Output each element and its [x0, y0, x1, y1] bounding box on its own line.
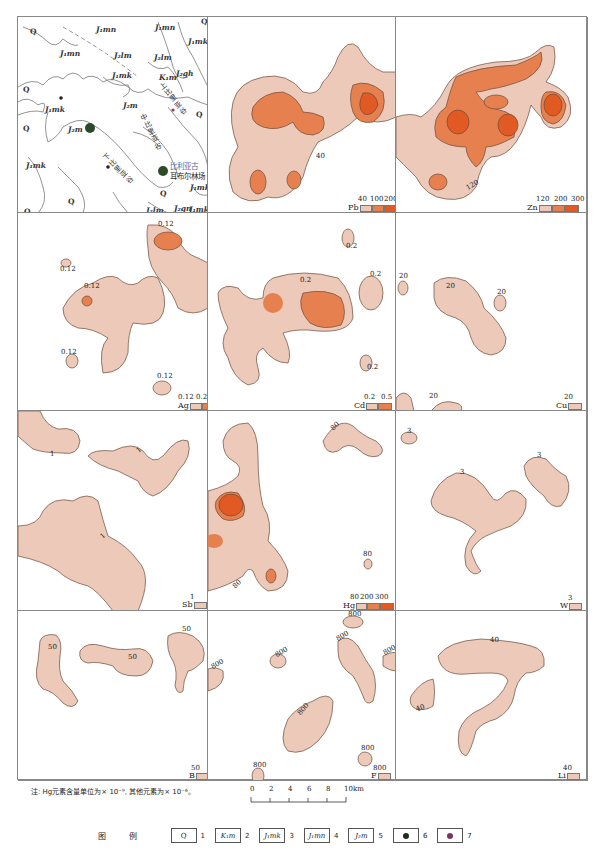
element-symbol: Li	[558, 771, 566, 780]
contour-label: 0.12	[60, 266, 76, 273]
low-swatch	[190, 403, 202, 410]
threshold-label: 0.2	[364, 393, 375, 401]
contour-label: 3	[407, 428, 411, 435]
zn-anomaly-map	[396, 17, 588, 213]
legend-item-j1mn: J₁mn 4	[304, 828, 338, 843]
pb-anomaly-map	[208, 17, 396, 213]
element-symbol: Zn	[527, 203, 538, 212]
geo-label: J₁mn	[60, 49, 80, 58]
legend-number: 6	[423, 832, 427, 840]
q-label: Q	[160, 189, 167, 198]
low-swatch	[356, 603, 367, 610]
element-symbol: Hg	[343, 601, 355, 610]
panel-cd: 0.2 0.2 0.2 0.2 Cd 0.2 0.5	[208, 213, 396, 411]
low-swatch	[569, 603, 582, 610]
element-symbol: Cu	[556, 401, 567, 410]
contour-label: 800	[253, 762, 266, 769]
contour-label: 20	[446, 283, 455, 290]
threshold-label: 0.5	[381, 393, 392, 401]
legend-number: 5	[378, 832, 382, 840]
w-legend-scale: W	[560, 601, 582, 610]
w-anomaly-map	[396, 411, 588, 611]
legend-number: 3	[289, 832, 293, 840]
contour-label: 40	[490, 637, 499, 644]
legend-symbol-box	[393, 828, 419, 843]
contour-label: 1	[50, 451, 54, 458]
legend-symbol: J₂m	[348, 828, 374, 843]
legend-symbol-box	[437, 828, 463, 843]
geo-label: J₁mn	[96, 25, 116, 34]
contour-label: 0.12	[157, 373, 173, 380]
f-legend-scale: F	[371, 771, 391, 780]
low-swatch	[378, 773, 391, 780]
geochemical-map-grid: J₁mn J₁mn J₁mn J₁mk J₂lm J₂lm K₁m J₂gh J…	[17, 16, 587, 780]
cu-anomaly-map	[396, 213, 588, 411]
pb-legend-scale: Pb	[348, 203, 396, 212]
contour-label: 0.2	[300, 277, 311, 284]
legend-item-purple-dot: 7	[437, 828, 471, 843]
low-swatch	[366, 403, 378, 410]
q-label: Q	[68, 197, 75, 206]
f-anomaly-map	[208, 611, 396, 781]
deposit-marker-large-icon	[158, 166, 168, 176]
element-symbol: Cd	[354, 401, 365, 410]
q-label: Q	[23, 85, 30, 94]
threshold-label: 200	[384, 195, 396, 203]
black-dot-icon	[403, 833, 409, 839]
panel-w: 3 3 3 W 3	[396, 411, 588, 611]
geo-label: J₁mk	[190, 183, 208, 192]
threshold-label: 40	[358, 195, 367, 203]
high-swatch	[565, 205, 579, 212]
panel-sb: 1 1 1 Sb 1	[18, 411, 208, 611]
panel-hg: 80 80 80 Hg 80 200 300	[208, 411, 396, 611]
legend-number: 4	[334, 832, 338, 840]
threshold-label: 40	[563, 764, 572, 772]
threshold-label: 3	[568, 594, 572, 602]
legend-number: 2	[245, 832, 249, 840]
q-label: Q	[196, 110, 203, 119]
threshold-label: 120	[536, 195, 549, 203]
geo-label: J₂lm	[154, 53, 172, 62]
geo-label: J₂m	[68, 125, 83, 134]
high-swatch	[380, 603, 394, 610]
contour-label: 800	[348, 611, 361, 618]
panel-f: 800 800 800 800 800 800 800 800 F 800	[208, 611, 396, 781]
threshold-label: 800	[373, 764, 386, 772]
panel-li: 40 40 Li 40	[396, 611, 588, 781]
threshold-label: 300	[571, 195, 584, 203]
contour-label: 0.2	[370, 271, 381, 278]
mid-swatch	[372, 205, 384, 212]
contour-label: 0.12	[158, 221, 174, 228]
b-anomaly-map	[18, 611, 208, 781]
contour-label: 800	[361, 745, 374, 752]
black-dot-icon	[59, 96, 63, 100]
contour-label: 50	[48, 644, 57, 651]
low-swatch	[568, 403, 582, 410]
ag-legend-scale: Ag	[178, 401, 208, 410]
geo-label: J₁mk	[45, 105, 65, 114]
threshold-label: 100	[370, 195, 383, 203]
geo-label: J₁mk	[26, 161, 46, 170]
map-legend: 图 例 Q 1 K₁m 2 J₁mk 3 J₁mn 4 J₂m 5 6 7	[98, 828, 482, 843]
mid-swatch	[367, 603, 380, 610]
legend-symbol: K₁m	[215, 828, 241, 843]
geo-label: J₂m	[123, 101, 138, 110]
q-label: Q	[23, 124, 30, 133]
scale-bar: 0 2 4 6 8 10km	[250, 782, 350, 812]
panel-pb: 40 Pb 40 100 200	[208, 17, 396, 213]
geo-label: J₁mk	[112, 71, 132, 80]
low-swatch	[196, 773, 208, 780]
panel-b: 50 50 50 B 50	[18, 611, 208, 781]
element-symbol: Sb	[182, 600, 193, 609]
contour-label: 20	[399, 273, 408, 280]
deposit-marker-large-icon	[85, 123, 95, 133]
contour-label: 0.12	[61, 349, 77, 356]
contour-label: 20	[497, 289, 506, 296]
element-symbol: W	[560, 601, 568, 610]
threshold-label: 300	[375, 593, 388, 601]
sb-anomaly-map	[18, 411, 208, 611]
geo-label: J₁mn	[155, 23, 175, 32]
cd-legend-scale: Cd	[354, 401, 392, 410]
contour-label: 50	[182, 626, 191, 633]
mid-swatch	[552, 205, 565, 212]
